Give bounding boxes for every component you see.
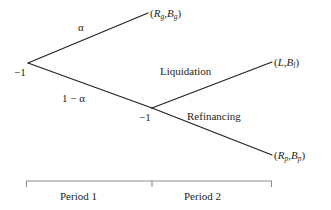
- period-label-2: Period 2: [184, 191, 221, 202]
- terminal-refinance-bank: B: [291, 149, 298, 161]
- branch-label-refinancing: Refinancing: [187, 111, 241, 122]
- edge-root-to-good: [28, 13, 148, 63]
- branch-label-liquidation: Liquidation: [160, 66, 211, 77]
- terminal-label-liquidate: (L,Bl): [274, 57, 299, 70]
- terminal-liquidate-close-paren: ): [295, 56, 299, 68]
- decision-tree-figure: −1 −1 α 1 − α Liquidation Refinancing (R…: [0, 0, 331, 210]
- branch-label-alpha: α: [78, 22, 84, 33]
- edge-root-to-second-node: [28, 63, 152, 108]
- terminal-good-close-paren: ): [177, 7, 181, 19]
- terminal-label-good: (Rg,Bg): [150, 8, 181, 21]
- period-label-1: Period 1: [60, 191, 97, 202]
- terminal-refinance-close-paren: ): [301, 149, 305, 161]
- terminal-good-bank: B: [167, 7, 174, 19]
- node-label-second: −1: [139, 112, 151, 123]
- branch-label-one-minus-alpha: 1 − α: [62, 93, 85, 104]
- terminal-label-refinance: (Rp,Bp): [274, 150, 305, 163]
- node-label-root: −1: [14, 67, 26, 78]
- tree-lines: [0, 0, 331, 210]
- timeline-bracket: [26, 181, 272, 187]
